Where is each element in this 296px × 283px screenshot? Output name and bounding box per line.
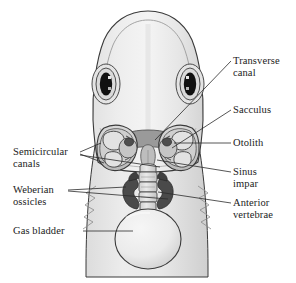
- right-otolith: [162, 138, 171, 146]
- label-weberian-ossicles: Weberian ossicles: [13, 184, 54, 207]
- anatomical-figure: Transverse canal Sacculus Otolith Sinus …: [0, 0, 296, 283]
- gas-bladder: [115, 209, 181, 269]
- label-otolith: Otolith: [233, 137, 263, 149]
- anterior-vertebrae: [139, 164, 157, 211]
- label-transverse-canal: Transverse canal: [233, 55, 280, 78]
- left-eye: [92, 64, 120, 104]
- label-sacculus: Sacculus: [233, 104, 271, 116]
- left-otolith: [124, 138, 133, 146]
- label-gas-bladder: Gas bladder: [13, 225, 65, 237]
- right-eye: [176, 64, 204, 104]
- label-anterior-vertebrae: Anterior vertebrae: [233, 197, 273, 220]
- label-sinus-impar: Sinus impar: [233, 166, 258, 189]
- label-semicircular-canals: Semicircular canals: [13, 146, 68, 169]
